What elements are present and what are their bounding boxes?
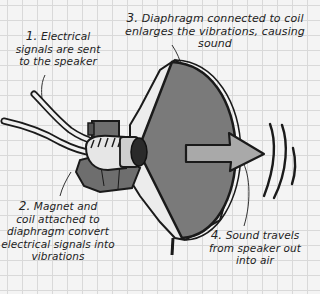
step-number: 1. <box>26 29 38 43</box>
label-line: from speaker out <box>200 242 310 255</box>
leader-line-2 <box>60 172 71 196</box>
label-line: into air <box>200 254 310 267</box>
label-line: Magnet and <box>34 200 97 212</box>
label-line: Sound travels <box>226 229 300 241</box>
label-line: to the speaker <box>8 55 108 68</box>
step-number: 4. <box>211 228 223 242</box>
label-line: coil attached to <box>0 213 116 226</box>
label-sound-travels: 4. Sound travels from speaker out into a… <box>200 229 310 267</box>
leader-line-4 <box>240 158 249 226</box>
label-magnet-coil: 2. Magnet and coil attached to diaphragm… <box>0 200 116 263</box>
coil <box>86 136 147 170</box>
sound-waves <box>264 124 295 198</box>
label-line: signals are sent <box>8 43 108 56</box>
label-line: electrical signals into <box>0 238 116 251</box>
step-number: 3. <box>126 11 138 25</box>
label-line: Diaphragm connected to coil <box>142 12 304 25</box>
label-line: vibrations <box>0 250 116 263</box>
label-line: Electrical <box>41 30 90 42</box>
step-number: 2. <box>19 199 31 213</box>
leader-line-1 <box>42 75 45 100</box>
wires <box>4 94 96 153</box>
label-diaphragm: 3. Diaphragm connected to coil enlarges … <box>110 12 314 51</box>
label-line: diaphragm convert <box>0 225 116 238</box>
label-electrical-signals: 1. Electrical signals are sent to the sp… <box>8 30 108 68</box>
label-line: enlarges the vibrations, causing sound <box>110 26 314 51</box>
